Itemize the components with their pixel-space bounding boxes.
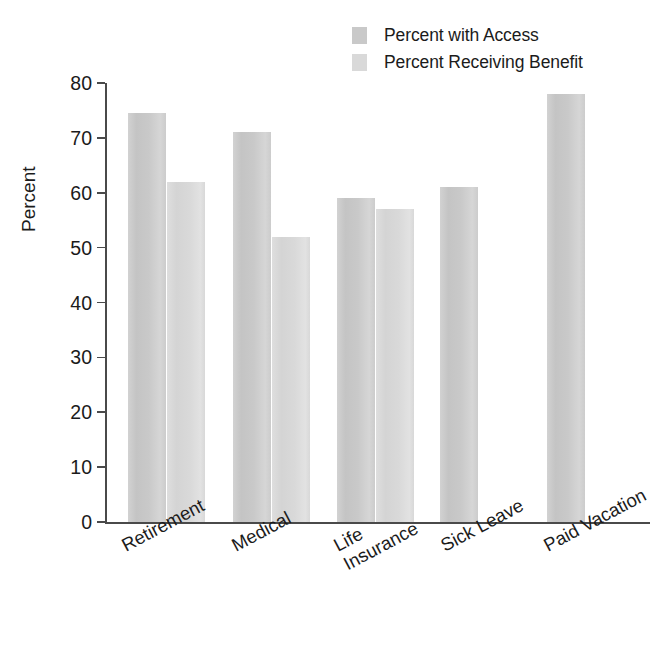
y-tick-label-30: 30 (46, 346, 92, 369)
y-axis-title: Percent (18, 167, 40, 232)
y-tick-50 (97, 247, 105, 249)
y-tick-30 (97, 357, 105, 359)
bar-retirement-access (128, 113, 166, 522)
bar-sick-leave-access (440, 187, 478, 522)
y-tick-label-40: 40 (46, 291, 92, 314)
bar-paid-vacation-access (547, 94, 585, 522)
plot-area (105, 83, 650, 522)
y-tick-label-60: 60 (46, 181, 92, 204)
y-tick-label-10: 10 (46, 456, 92, 479)
bar-chart: Percent with Access Percent Receiving Be… (0, 0, 668, 657)
legend-swatch-receiving (352, 54, 367, 71)
legend-item-percent-with-access: Percent with Access (352, 22, 652, 49)
y-tick-label-20: 20 (46, 401, 92, 424)
y-tick-label-50: 50 (46, 236, 92, 259)
bar-medical-access (233, 132, 271, 522)
y-tick-70 (97, 137, 105, 139)
chart-legend: Percent with Access Percent Receiving Be… (352, 22, 652, 76)
legend-swatch-access (352, 27, 367, 44)
y-tick-label-80: 80 (46, 72, 92, 95)
y-tick-label-0: 0 (46, 511, 92, 534)
y-axis-line (105, 83, 107, 522)
legend-label-receiving: Percent Receiving Benefit (384, 54, 583, 72)
bar-life-insurance-access (337, 198, 375, 522)
bar-retirement-receiving (167, 182, 205, 522)
legend-item-percent-receiving-benefit: Percent Receiving Benefit (352, 49, 652, 76)
y-tick-label-70: 70 (46, 126, 92, 149)
y-tick-10 (97, 466, 105, 468)
y-tick-0 (97, 521, 105, 523)
bar-medical-receiving (272, 237, 310, 522)
y-tick-60 (97, 192, 105, 194)
y-tick-20 (97, 411, 105, 413)
bar-life-insurance-receiving (376, 209, 414, 522)
y-tick-80 (97, 82, 105, 84)
y-tick-40 (97, 302, 105, 304)
legend-label-access: Percent with Access (384, 27, 539, 45)
